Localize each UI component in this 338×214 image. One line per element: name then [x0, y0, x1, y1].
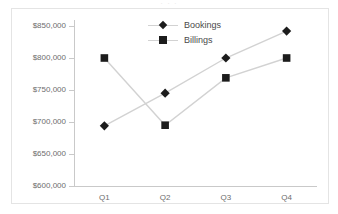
legend-item-bookings: Bookings	[148, 18, 258, 33]
diamond-marker-icon	[161, 89, 170, 98]
legend-item-billings: Billings	[148, 33, 258, 48]
square-marker-icon	[101, 54, 109, 62]
legend-label-bookings: Bookings	[184, 18, 221, 33]
legend-label-billings: Billings	[184, 33, 213, 48]
square-marker-icon	[161, 121, 169, 129]
diamond-marker-icon	[221, 53, 230, 62]
series-line-billings	[104, 58, 286, 125]
square-marker-icon	[222, 74, 230, 82]
diamond-marker-icon	[100, 121, 109, 130]
line-chart: · · · $600,000$650,000$700,000$750,000$8…	[0, 0, 338, 214]
chart-legend: Bookings Billings	[148, 18, 258, 48]
square-marker-icon	[159, 36, 167, 44]
diamond-marker-icon	[282, 27, 291, 36]
diamond-marker-icon	[159, 21, 167, 29]
square-marker-icon	[283, 54, 291, 62]
